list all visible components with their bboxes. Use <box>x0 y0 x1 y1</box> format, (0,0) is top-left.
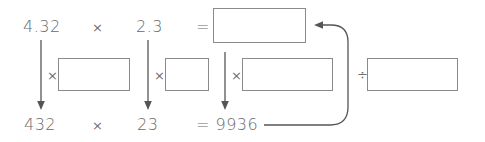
times-sign-bottom: × <box>92 119 103 132</box>
multiplication-diagram: 4.32 × 2.3 = × × × ÷ 432 × 23 = 9936 <box>0 0 485 142</box>
factor-b-whole: 23 <box>137 117 158 133</box>
times-sign-1: × <box>47 69 58 82</box>
multiplier-box-2[interactable] <box>165 58 209 91</box>
product-result: = 9936 <box>196 117 258 133</box>
factor-a-decimal: 4.32 <box>23 19 61 35</box>
answer-input-box[interactable] <box>213 8 306 43</box>
times-sign-2: × <box>154 69 165 82</box>
times-sign-top: × <box>92 21 103 34</box>
divisor-box[interactable] <box>367 58 458 91</box>
factor-b-decimal: 2.3 <box>136 19 163 35</box>
multiplier-box-1[interactable] <box>58 58 130 91</box>
equals-sign-top: = <box>196 19 210 35</box>
times-sign-3: × <box>231 69 242 82</box>
factor-a-whole: 432 <box>24 117 56 133</box>
multiplier-box-3[interactable] <box>242 58 333 91</box>
